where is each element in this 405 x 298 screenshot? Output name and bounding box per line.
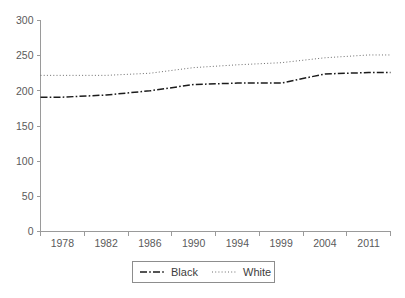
- y-axis: 050100150200250300: [16, 14, 41, 237]
- legend-label-white: White: [243, 266, 271, 278]
- x-tick-label: 1982: [94, 237, 118, 249]
- legend-label-black: Black: [171, 266, 198, 278]
- series-line-black: [41, 73, 391, 98]
- y-tick-label: 100: [16, 155, 34, 167]
- x-axis-tick-labels: 19781982198619901994199920042011: [51, 237, 380, 249]
- line-chart: 050100150200250300 197819821986199019941…: [0, 0, 405, 298]
- chart-canvas: 050100150200250300 197819821986199019941…: [0, 0, 405, 298]
- legend-entry-white[interactable]: White: [212, 266, 271, 278]
- y-tick-label: 200: [16, 85, 34, 97]
- x-tick-label: 1990: [182, 237, 206, 249]
- series-line-white: [41, 55, 391, 75]
- y-tick-label: 150: [16, 120, 34, 132]
- y-axis-ticks: [37, 21, 41, 232]
- y-tick-label: 250: [16, 49, 34, 61]
- x-tick-label: 1978: [51, 237, 75, 249]
- x-tick-label: 2004: [313, 237, 337, 249]
- y-tick-label: 0: [28, 225, 34, 237]
- x-tick-label: 2011: [357, 237, 380, 249]
- x-tick-label: 1994: [226, 237, 250, 249]
- x-axis-ticks: [41, 232, 391, 236]
- x-axis: 19781982198619901994199920042011: [41, 232, 391, 250]
- x-tick-label: 1999: [269, 237, 293, 249]
- x-tick-label: 1986: [138, 237, 162, 249]
- y-tick-label: 300: [16, 14, 34, 26]
- y-tick-label: 50: [22, 190, 34, 202]
- legend-entry-black[interactable]: Black: [140, 266, 198, 278]
- chart-legend: BlackWhite: [132, 262, 274, 283]
- data-series-layer: [41, 55, 391, 97]
- y-axis-tick-labels: 050100150200250300: [16, 14, 34, 237]
